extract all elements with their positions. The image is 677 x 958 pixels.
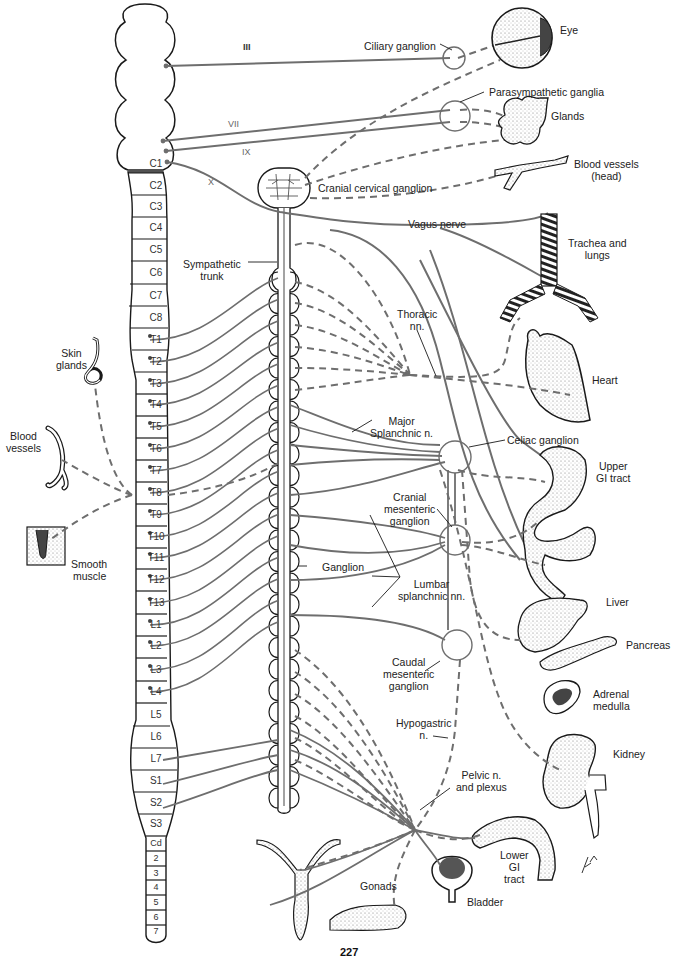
label-blood-vessels-head: Blood vessels (head) bbox=[574, 158, 639, 182]
spinal-segment-label: L5 bbox=[136, 709, 176, 721]
cranial-nerve-X-label: X bbox=[208, 177, 214, 187]
spinal-segment-label: T10 bbox=[136, 531, 176, 543]
label-pancreas: Pancreas bbox=[626, 639, 670, 651]
cranial-nerve-VII-label: VII bbox=[228, 119, 239, 129]
spinal-segment-label: 6 bbox=[146, 911, 166, 923]
label-blood-vessels: Blood vessels bbox=[6, 430, 41, 454]
spinal-segment-label: Cd bbox=[146, 837, 166, 849]
label-cranial-cervical-ganglion: Cranial cervical ganglion bbox=[318, 182, 432, 194]
spinal-segment-label: T9 bbox=[136, 509, 176, 521]
label-ciliary-ganglion: Ciliary ganglion bbox=[364, 40, 436, 52]
kidney-organ bbox=[543, 734, 606, 838]
brainstem bbox=[115, 4, 175, 170]
spinal-segment-label: T2 bbox=[136, 356, 176, 368]
skin-glands-organ bbox=[85, 338, 101, 383]
spinal-segment-label: T3 bbox=[136, 378, 176, 390]
spinal-segment-label: T8 bbox=[136, 487, 176, 499]
splanchnic-nerves bbox=[163, 405, 475, 905]
adrenal-medulla-organ bbox=[544, 681, 580, 714]
spinal-segment-label: T7 bbox=[136, 465, 176, 477]
label-liver: Liver bbox=[606, 596, 629, 608]
glands-organ bbox=[499, 96, 548, 144]
bladder-organ bbox=[432, 857, 472, 903]
smooth-muscle-organ bbox=[27, 527, 65, 565]
spinal-segment-label: T11 bbox=[136, 552, 176, 564]
label-parasympathetic-ganglia: Parasympathetic ganglia bbox=[489, 86, 604, 98]
cranial-nerve-IX-label: IX bbox=[242, 147, 251, 157]
cranial-nerve-III-label: III bbox=[243, 42, 251, 52]
liver-organ bbox=[518, 598, 587, 652]
label-ganglion: Ganglion bbox=[322, 561, 364, 573]
artist-signature bbox=[582, 856, 597, 873]
spinal-segment-label: L4 bbox=[136, 686, 176, 698]
spinal-segment-label: C5 bbox=[136, 244, 176, 256]
spinal-segment-label: S1 bbox=[136, 775, 176, 787]
label-hypogastric-n: Hypogastric n. bbox=[396, 717, 451, 741]
eye-organ bbox=[492, 8, 552, 68]
spinal-segment-label: T4 bbox=[136, 399, 176, 411]
label-adrenal-medulla: Adrenal medulla bbox=[593, 688, 630, 712]
label-cranial-mesenteric-ganglion: Cranial mesenteric ganglion bbox=[384, 491, 435, 527]
label-pelvic-n-and-plexus: Pelvic n. and plexus bbox=[456, 769, 507, 793]
sympathetic-trunk bbox=[258, 168, 310, 813]
label-trachea-and-lungs: Trachea and lungs bbox=[568, 237, 627, 261]
label-sympathetic-trunk: Sympathetic trunk bbox=[183, 258, 241, 282]
label-thoracic-nn: Thoracic nn. bbox=[397, 308, 437, 332]
label-kidney: Kidney bbox=[613, 748, 645, 760]
spinal-segment-label: 3 bbox=[146, 867, 166, 879]
page-number: 227 bbox=[340, 946, 358, 958]
spinal-segment-label: C4 bbox=[136, 222, 176, 234]
spinal-segment-label: L2 bbox=[136, 640, 176, 652]
trachea-lungs-organ bbox=[500, 214, 598, 322]
label-eye: Eye bbox=[560, 24, 578, 36]
spinal-segment-label: C2 bbox=[136, 180, 176, 192]
spinal-segment-label: 5 bbox=[146, 896, 166, 908]
spinal-segment-label: L7 bbox=[136, 753, 176, 765]
spinal-segment-label: L3 bbox=[136, 664, 176, 676]
spinal-segment-label: C3 bbox=[136, 201, 176, 213]
label-lower-gi-tract: Lower GI tract bbox=[500, 849, 529, 885]
blood-vessels-head-organ bbox=[495, 156, 568, 190]
label-bladder: Bladder bbox=[467, 896, 503, 908]
label-major-splanchnic: Major Splanchnic n. bbox=[370, 415, 433, 439]
spinal-segment-label: T6 bbox=[136, 443, 176, 455]
spinal-segment-label: T12 bbox=[136, 574, 176, 586]
heart-organ bbox=[526, 330, 590, 422]
spinal-segment-label: T13 bbox=[136, 597, 176, 609]
spinal-segment-label: C1 bbox=[136, 158, 176, 170]
spinal-segment-label: C6 bbox=[136, 267, 176, 279]
spinal-segment-label: S3 bbox=[136, 818, 176, 830]
spinal-segment-label: C7 bbox=[136, 290, 176, 302]
label-heart: Heart bbox=[592, 374, 618, 386]
label-smooth-muscle: Smooth muscle bbox=[71, 558, 107, 582]
label-gonads: Gonads bbox=[360, 880, 397, 892]
spinal-segment-label: 4 bbox=[146, 881, 166, 893]
spinal-segment-label: T5 bbox=[136, 421, 176, 433]
postganglionic-body bbox=[50, 243, 570, 910]
label-skin-glands: Skin glands bbox=[56, 347, 87, 371]
label-upper-gi-tract: Upper GI tract bbox=[596, 460, 630, 484]
spinal-segment-label: L1 bbox=[136, 619, 176, 631]
label-celiac-ganglion: Celiac ganglion bbox=[507, 434, 579, 446]
spinal-segment-label: 2 bbox=[146, 852, 166, 864]
label-vagus-nerve: Vagus nerve bbox=[408, 218, 466, 230]
spinal-segment-label: C8 bbox=[136, 312, 176, 324]
blood-vessels-organ bbox=[48, 428, 66, 488]
label-caudal-mesenteric-ganglion: Caudal mesenteric ganglion bbox=[383, 656, 434, 692]
spinal-segment-label: S2 bbox=[136, 797, 176, 809]
spinal-segment-label: 7 bbox=[146, 925, 166, 937]
label-lumbar-splanchnic: Lumbar splanchnic nn. bbox=[398, 578, 465, 602]
spinal-segment-label: L6 bbox=[136, 731, 176, 743]
spinal-segment-label: T1 bbox=[136, 334, 176, 346]
label-glands: Glands bbox=[551, 110, 584, 122]
head-ganglia bbox=[440, 47, 470, 131]
